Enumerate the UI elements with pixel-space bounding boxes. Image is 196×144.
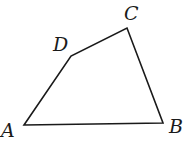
- quadrilateral-diagram: A B C D: [0, 0, 196, 144]
- vertex-label-a: A: [0, 119, 15, 141]
- quadrilateral-abcd: [24, 28, 163, 125]
- vertex-label-d: D: [52, 33, 68, 55]
- vertex-label-b: B: [168, 115, 183, 137]
- vertex-label-c: C: [124, 2, 139, 24]
